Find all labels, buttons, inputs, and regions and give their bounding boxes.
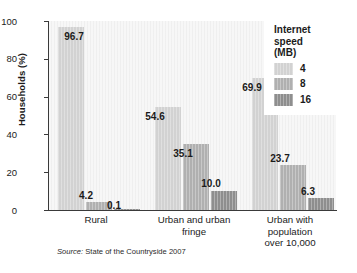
legend-item-4: 4 bbox=[274, 63, 357, 75]
bar-urbanfringe-16 bbox=[211, 191, 237, 210]
y-tick-mark-0 bbox=[44, 210, 48, 211]
bar-chart-figure: 100 80 60 40 20 0 Households (%) 96.7 4.… bbox=[0, 0, 357, 273]
y-tick-label-60: 60 bbox=[0, 92, 17, 102]
y-axis-title: Households (%) bbox=[16, 15, 27, 165]
y-tick-mark-100 bbox=[44, 21, 48, 22]
y-tick-label-20: 20 bbox=[0, 168, 17, 178]
legend-title-line2: speed bbox=[274, 36, 357, 48]
legend-title-line3: (MB) bbox=[274, 47, 357, 59]
x-axis-label-urban-fringe-line1: Urban and urban bbox=[144, 214, 244, 226]
bar-rural-4 bbox=[58, 27, 84, 210]
legend-swatch-8 bbox=[274, 78, 293, 90]
y-tick-label-80: 80 bbox=[0, 54, 17, 64]
x-axis-label-rural: Rural bbox=[48, 214, 144, 226]
value-label-urbanpop-16: 6.3 bbox=[284, 186, 332, 197]
source-prefix: Source: bbox=[57, 247, 83, 256]
y-tick-label-0: 0 bbox=[0, 206, 17, 216]
y-tick-mark-20 bbox=[44, 172, 48, 173]
y-tick-label-40: 40 bbox=[0, 130, 17, 140]
x-axis-label-urban-population-line3: over 10,000 bbox=[243, 237, 337, 249]
legend-label-8: 8 bbox=[300, 78, 306, 90]
legend-title: Internet speed (MB) bbox=[274, 24, 357, 59]
source-note: Source: State of the Countryside 2007 bbox=[57, 247, 186, 256]
legend-label-4: 4 bbox=[300, 63, 306, 75]
bar-urbanpop-16 bbox=[308, 198, 334, 210]
x-axis-label-rural-line1: Rural bbox=[48, 214, 144, 226]
y-tick-mark-40 bbox=[44, 134, 48, 135]
legend-swatch-16 bbox=[274, 94, 293, 106]
value-label-urbanfringe-4: 54.6 bbox=[131, 111, 179, 122]
value-label-urbanfringe-8: 35.1 bbox=[159, 148, 207, 159]
source-text: State of the Countryside 2007 bbox=[85, 247, 185, 256]
x-axis-label-urban-fringe-line2: fringe bbox=[144, 226, 244, 238]
x-axis-label-urban-population: Urban with population over 10,000 bbox=[243, 214, 337, 249]
value-label-rural-16: 0.1 bbox=[90, 200, 138, 211]
value-label-rural-4: 96.7 bbox=[50, 31, 98, 42]
y-tick-label-100: 100 bbox=[0, 17, 17, 27]
x-axis-label-urban-population-line2: population bbox=[243, 226, 337, 238]
x-axis-label-urban-population-line1: Urban with bbox=[243, 214, 337, 226]
value-label-urbanpop-8: 23.7 bbox=[256, 153, 304, 164]
x-axis-label-urban-fringe: Urban and urban fringe bbox=[144, 214, 244, 237]
legend: Internet speed (MB) 4 8 16 bbox=[264, 18, 357, 115]
legend-item-16: 16 bbox=[274, 94, 357, 106]
legend-title-line1: Internet bbox=[274, 24, 357, 36]
y-tick-mark-60 bbox=[44, 97, 48, 98]
legend-swatch-4 bbox=[274, 63, 293, 75]
value-label-urbanfringe-16: 10.0 bbox=[187, 178, 235, 189]
y-tick-mark-80 bbox=[44, 59, 48, 60]
legend-label-16: 16 bbox=[300, 94, 311, 106]
legend-item-8: 8 bbox=[274, 78, 357, 90]
